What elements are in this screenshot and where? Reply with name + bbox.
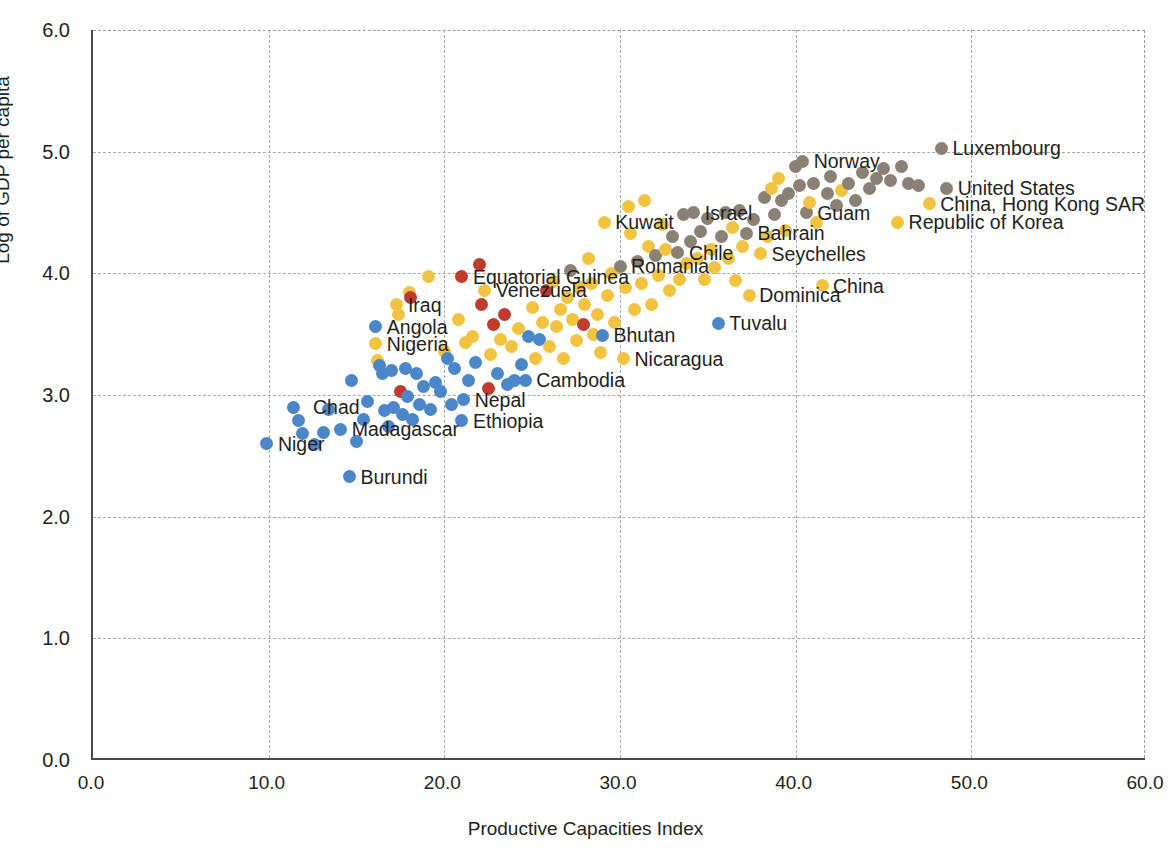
y-tick-label: 6.0 <box>0 19 70 42</box>
data-point <box>557 352 570 365</box>
data-point <box>462 374 475 387</box>
data-point <box>687 206 700 219</box>
gridline-vertical <box>796 30 797 758</box>
point-label: Guam <box>817 201 870 224</box>
point-label: Chad <box>313 396 360 419</box>
point-label: Luxembourg <box>952 137 1060 160</box>
point-label: Nepal <box>475 388 526 411</box>
data-point <box>842 177 855 190</box>
data-point <box>526 301 539 314</box>
data-point <box>343 470 356 483</box>
data-point <box>445 398 458 411</box>
y-tick-label: 3.0 <box>0 384 70 407</box>
data-point <box>821 187 834 200</box>
data-point <box>628 303 641 316</box>
data-point <box>807 177 820 190</box>
data-point <box>923 197 936 210</box>
gridline-vertical <box>269 30 270 758</box>
gridline-vertical <box>620 30 621 758</box>
data-point <box>287 401 300 414</box>
data-point <box>369 337 382 350</box>
plot-frame-top <box>93 30 1145 31</box>
data-point <box>410 367 423 380</box>
data-point <box>663 284 676 297</box>
gridline-horizontal <box>93 517 1145 518</box>
y-tick-label: 2.0 <box>0 505 70 528</box>
data-point <box>635 277 648 290</box>
data-point <box>543 340 556 353</box>
point-label: Madagascar <box>352 418 459 441</box>
data-point <box>519 374 532 387</box>
x-tick-label: 40.0 <box>749 772 839 794</box>
point-label: Venezuela <box>496 279 587 302</box>
data-point <box>498 308 511 321</box>
data-point <box>601 289 614 302</box>
point-label: Seychelles <box>772 242 866 265</box>
data-point <box>582 252 595 265</box>
point-label: Nigeria <box>387 332 449 355</box>
point-label: Israel <box>705 201 753 224</box>
x-tick-label: 20.0 <box>397 772 487 794</box>
chart-root: LuxembourgNorwayUnited StatesChina, Hong… <box>0 0 1171 867</box>
x-tick-label: 50.0 <box>924 772 1014 794</box>
data-point <box>598 216 611 229</box>
data-point <box>729 274 742 287</box>
x-axis-title: Productive Capacities Index <box>0 818 1171 840</box>
point-label: Iraq <box>408 293 442 316</box>
data-point <box>743 289 756 302</box>
data-point <box>475 298 488 311</box>
data-point <box>884 174 897 187</box>
gridline-horizontal <box>93 395 1145 396</box>
data-point <box>754 247 767 260</box>
point-label: Niger <box>278 432 325 455</box>
data-point <box>515 358 528 371</box>
point-label: Burundi <box>360 465 427 488</box>
x-tick-label: 30.0 <box>573 772 663 794</box>
gridline-horizontal <box>93 638 1145 639</box>
x-tick-label: 10.0 <box>222 772 312 794</box>
data-point <box>740 227 753 240</box>
data-point <box>401 390 414 403</box>
data-point <box>772 172 785 185</box>
data-point <box>554 303 567 316</box>
data-point <box>803 196 816 209</box>
data-point <box>793 179 806 192</box>
plot-area: LuxembourgNorwayUnited StatesChina, Hong… <box>91 30 1145 760</box>
data-point <box>457 393 470 406</box>
y-axis-title: Log of GDP per capita <box>0 40 14 300</box>
data-point <box>591 308 604 321</box>
data-point <box>645 298 658 311</box>
point-label: Ethiopia <box>473 409 543 432</box>
data-point <box>935 142 948 155</box>
data-point <box>796 155 809 168</box>
data-point <box>292 414 305 427</box>
data-point <box>448 362 461 375</box>
data-point <box>712 317 725 330</box>
data-point <box>550 320 563 333</box>
data-point <box>694 225 707 238</box>
data-point <box>422 270 435 283</box>
x-tick-label: 0.0 <box>46 772 136 794</box>
data-point <box>487 318 500 331</box>
x-tick-label: 60.0 <box>1100 772 1171 794</box>
point-label: Bahrain <box>757 222 824 245</box>
data-point <box>484 348 497 361</box>
data-point <box>491 367 504 380</box>
point-label: Tuvalu <box>729 312 787 335</box>
data-point <box>768 208 781 221</box>
data-point <box>345 374 358 387</box>
data-point <box>466 330 479 343</box>
data-point <box>469 356 482 369</box>
data-point <box>424 403 437 416</box>
plot-frame-right <box>1144 30 1145 758</box>
data-point <box>596 329 609 342</box>
data-point <box>452 313 465 326</box>
point-label: Cambodia <box>536 369 625 392</box>
data-point <box>385 364 398 377</box>
data-point <box>536 316 549 329</box>
data-point <box>577 318 590 331</box>
point-label: Nicaragua <box>635 347 724 370</box>
data-point <box>417 380 430 393</box>
point-label: Romania <box>631 255 709 278</box>
point-label: Norway <box>814 150 880 173</box>
